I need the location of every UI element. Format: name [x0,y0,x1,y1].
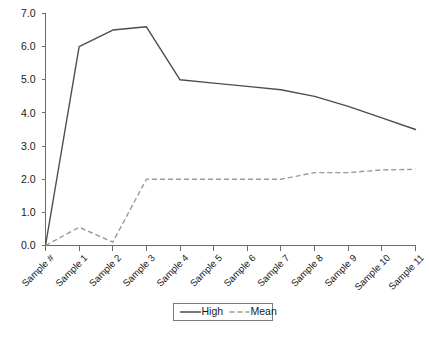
y-axis-tick-label: 3.0 [21,140,36,152]
figure-caption [8,332,421,340]
x-axis-tick-label: Sample 4 [154,252,191,289]
y-axis-tick-label: 0.0 [21,239,36,251]
y-axis-tick-label: 6.0 [21,40,36,52]
x-axis-tick-label: Sample # [19,252,56,289]
y-axis-tick-label: 2.0 [21,173,36,185]
x-axis-tick-label: Sample 5 [188,252,224,288]
chart-legend: High Mean [174,304,277,321]
y-axis-tick-label: 7.0 [21,7,36,19]
x-axis-tick-label: Sample 11 [386,252,426,292]
legend-label-high: High [202,305,224,317]
y-axis-tick-marks [42,14,46,246]
series-line-mean [46,169,416,245]
y-axis-tick-label: 4.0 [21,107,36,119]
series-line-high [46,27,416,246]
x-axis-tick-labels: Sample #Sample 1Sample 2Sample 3Sample 4… [19,252,425,293]
chart-canvas: 0.01.02.03.04.05.06.07.0 Sample #Sample … [0,0,429,340]
x-axis-tick-marks [46,246,416,251]
y-axis-tick-labels: 0.01.02.03.04.05.06.07.0 [21,7,36,251]
line-chart: 0.01.02.03.04.05.06.07.0 Sample #Sample … [0,0,429,340]
x-axis-tick-label: Sample 10 [352,252,392,292]
y-axis-tick-label: 1.0 [21,206,36,218]
x-axis-tick-label: Sample 3 [120,252,156,288]
legend-label-mean: Mean [251,305,277,317]
x-axis-tick-label: Sample 1 [53,252,89,288]
x-axis-tick-label: Sample 7 [255,252,291,288]
x-axis-tick-label: Sample 6 [221,252,257,288]
y-axis-tick-label: 5.0 [21,73,36,85]
x-axis-tick-label: Sample 8 [289,252,325,288]
x-axis-tick-label: Sample 2 [87,252,123,288]
